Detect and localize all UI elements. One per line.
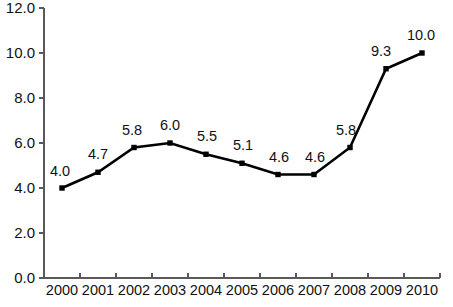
x-axis-tick-label: 2006 [262,282,294,298]
y-axis-tick-label: 4.0 [14,179,35,196]
x-axis-tick-label: 2002 [118,282,150,298]
data-point-label: 4.6 [305,149,325,165]
chart-canvas: 0.02.04.06.08.010.012.0 2000200120022003… [0,0,453,307]
data-point-marker [239,161,244,166]
y-axis-tick-label: 6.0 [14,134,35,151]
data-point-label: 5.1 [233,137,253,153]
data-point-marker [419,50,424,55]
data-point-marker [167,140,172,145]
x-axis-tick-label: 2008 [334,282,366,298]
data-point-label: 9.3 [371,43,391,59]
x-axis-tick-label: 2001 [82,282,114,298]
data-point-marker [383,66,388,71]
data-point-label: 10.0 [407,27,435,43]
data-point-marker [59,185,64,190]
x-axis-tick-label: 2005 [226,282,258,298]
x-axis-tick-label: 2007 [298,282,330,298]
y-axis-tick-label: 0.0 [14,269,35,286]
data-point-label: 4.6 [269,149,289,165]
data-point-marker [275,172,280,177]
y-axis-tick-label: 8.0 [14,89,35,106]
data-point-label: 6.0 [160,117,180,133]
data-point-marker [95,170,100,175]
y-axis-tick-label: 12.0 [6,0,35,16]
x-axis-tick-label: 2010 [406,282,438,298]
data-point-label: 4.7 [88,146,108,162]
data-point-label: 5.8 [122,122,142,138]
data-point-marker [131,145,136,150]
data-point-marker [203,152,208,157]
x-axis-tick-label: 2004 [190,282,222,298]
y-axis-tick-label: 10.0 [6,44,35,61]
x-axis-tick-label: 2009 [370,282,402,298]
data-point-label: 5.8 [336,122,356,138]
data-point-label: 5.5 [197,128,217,144]
data-point-label: 4.0 [50,163,70,179]
line-chart: 0.02.04.06.08.010.012.0 2000200120022003… [0,0,453,307]
x-axis-tick-label: 2000 [46,282,78,298]
y-axis-tick-label: 2.0 [14,224,35,241]
data-point-marker [347,145,352,150]
x-axis-tick-label: 2003 [154,282,186,298]
data-point-marker [311,172,316,177]
